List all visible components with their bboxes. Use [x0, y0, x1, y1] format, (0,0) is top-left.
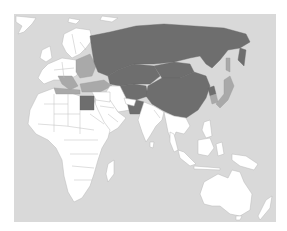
egypt[interactable]: [80, 96, 94, 110]
madagascar[interactable]: [106, 160, 114, 182]
sulawesi: [216, 142, 224, 156]
novaya-zemlya: [100, 16, 118, 22]
kamchatka: [238, 48, 246, 66]
mediterranean-europe[interactable]: [58, 76, 78, 90]
australia[interactable]: [200, 170, 252, 216]
new-guinea[interactable]: [232, 154, 258, 170]
new-zealand[interactable]: [258, 196, 272, 220]
japan[interactable]: [216, 76, 234, 108]
svalbard: [68, 18, 80, 24]
arctic-islands: [16, 16, 36, 34]
north-africa-coast: [54, 88, 80, 94]
uk-ireland[interactable]: [40, 46, 52, 62]
sri-lanka: [150, 142, 154, 148]
levant-iraq[interactable]: [92, 92, 110, 102]
java-islands: [194, 166, 220, 170]
eastern-europe[interactable]: [76, 54, 96, 78]
south-korea[interactable]: [210, 94, 218, 104]
scandinavia[interactable]: [62, 28, 92, 58]
philippines[interactable]: [202, 120, 212, 138]
malay-peninsula: [170, 132, 178, 152]
tasmania: [236, 216, 242, 220]
map[interactable]: [14, 14, 276, 222]
sumatra[interactable]: [178, 150, 196, 166]
world-map-svg[interactable]: [14, 14, 276, 222]
borneo[interactable]: [198, 138, 214, 156]
sakhalin: [226, 58, 230, 72]
